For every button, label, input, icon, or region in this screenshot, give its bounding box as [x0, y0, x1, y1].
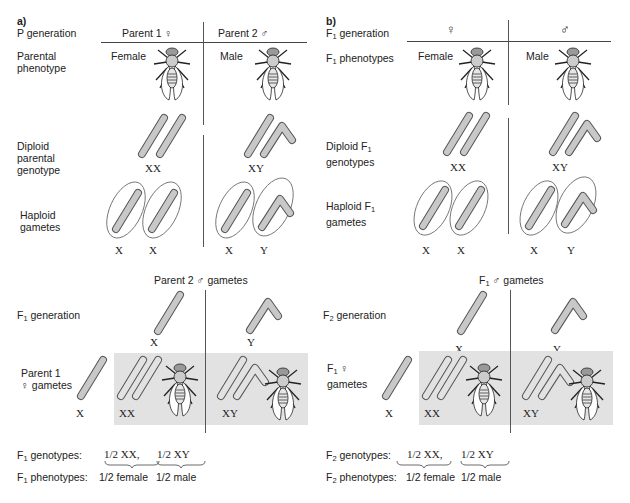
phenotype-fraction-female: 1/2 female	[406, 471, 455, 483]
chromosome-x-icon	[423, 226, 424, 227]
chromosome-x-icon	[529, 226, 530, 227]
chromosome-x-icon	[526, 396, 527, 397]
genotypes-summary-label: F2 genotypes:	[326, 449, 391, 465]
chromosome-x-icon	[386, 396, 387, 397]
chromosome-y-icon	[542, 396, 543, 397]
phenotypes-summary-label: F2 phenotypes:	[326, 471, 397, 487]
chromosome-x-icon	[426, 396, 427, 397]
fly-male-icon	[587, 392, 588, 393]
row-gamete-x: X	[385, 407, 393, 419]
gamete-label: X	[530, 244, 538, 256]
chromosome-x-icon	[459, 226, 460, 227]
genotype-fraction-xx: 1/2 XX,	[407, 448, 442, 460]
fly-female-icon	[484, 388, 485, 389]
punnett-divider	[510, 351, 511, 433]
side-label: F1 ♀gametes	[327, 362, 367, 390]
offspring-xy: XY	[523, 407, 539, 419]
gamete-label: X	[422, 244, 430, 256]
cross-header: F1 ♂ gametes	[479, 274, 544, 290]
chromosome-x-icon	[461, 331, 462, 332]
gamete-label: Y	[567, 244, 575, 256]
phenotype-fraction-male: 1/2 male	[461, 471, 501, 483]
chromosome-y-icon	[555, 330, 556, 331]
gamete-label: X	[457, 244, 465, 256]
next-gen-label: F2 generation	[323, 309, 386, 325]
chromosome-x-icon	[441, 396, 442, 397]
chromosome-y-icon	[565, 224, 566, 225]
genotype-fraction-xy: 1/2 XY	[461, 448, 494, 460]
offspring-xx: XX	[424, 407, 440, 419]
